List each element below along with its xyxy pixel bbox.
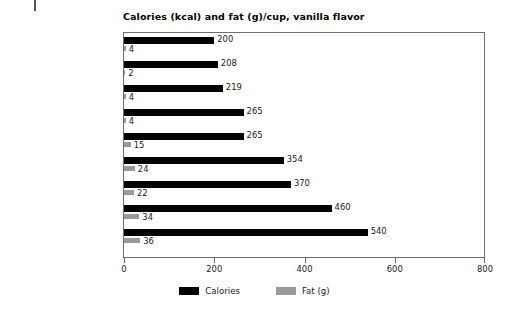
x-axis-tick-label: 0 (121, 264, 126, 274)
bar-value-calories: 208 (221, 58, 237, 68)
bar-value-calories: 540 (371, 226, 387, 236)
bar-value-fat: 34 (142, 212, 153, 222)
bar-calories (124, 61, 218, 68)
bar-value-calories: 265 (247, 130, 263, 140)
bar-value-fat: 4 (129, 116, 134, 126)
chart-title: Calories (kcal) and fat (g)/cup, vanilla… (123, 11, 365, 22)
bar-fat (124, 70, 125, 75)
x-axis: 0200400600800 (124, 257, 485, 281)
chart-row: Ice Cream/10% fat26515 (124, 129, 485, 153)
bar-fat (124, 46, 126, 51)
bar-value-fat: 22 (137, 188, 148, 198)
x-axis-tick-label: 200 (206, 264, 222, 274)
bar-fat (124, 190, 134, 195)
bar-value-calories: 354 (287, 154, 303, 164)
page-crop-mark (34, 0, 36, 11)
bar-fat (124, 166, 135, 171)
chart-row: Low-fat Ice Cream2004 (124, 33, 485, 57)
x-axis-tick-label: 800 (477, 264, 493, 274)
legend-item: Calories (179, 286, 240, 296)
legend-item: Fat (g) (276, 286, 330, 296)
bar-fat (124, 118, 126, 123)
legend-label: Calories (205, 286, 240, 296)
bar-value-fat: 2 (128, 68, 133, 78)
x-axis-tick (305, 257, 306, 263)
bar-calories (124, 37, 214, 44)
bar-calories (124, 229, 368, 236)
bar-value-calories: 370 (294, 178, 310, 188)
legend-swatch (276, 287, 296, 295)
bar-fat (124, 238, 140, 243)
chart-row: Sherbet (orange)2654 (124, 105, 485, 129)
chart-legend: CaloriesFat (g) (0, 286, 509, 296)
x-axis-tick-label: 600 (387, 264, 403, 274)
chart-row: Ice Cream/Häagen Dazs54036 (124, 225, 485, 249)
x-axis-tick-label: 400 (297, 264, 313, 274)
chart-page: Calories (kcal) and fat (g)/cup, vanilla… (0, 0, 509, 309)
bar-rows: Low-fat Ice Cream2004Frozen Yogurt/Nonfa… (124, 33, 485, 257)
x-axis-tick (395, 257, 396, 263)
x-axis-tick (124, 257, 125, 263)
bar-calories (124, 109, 244, 116)
bar-calories (124, 181, 291, 188)
bar-value-calories: 265 (247, 106, 263, 116)
legend-label: Fat (g) (302, 286, 330, 296)
bar-fat (124, 214, 139, 219)
bar-value-calories: 200 (217, 34, 233, 44)
bar-value-fat: 15 (134, 140, 145, 150)
x-axis-tick (214, 257, 215, 263)
bar-value-fat: 36 (143, 236, 154, 246)
chart-row: Frozen Yogurt/Low-fat2194 (124, 81, 485, 105)
bar-calories (124, 157, 284, 164)
x-axis-tick (484, 257, 485, 263)
bar-value-fat: 24 (138, 164, 149, 174)
chart-row: Ice Cream/16% fat35424 (124, 153, 485, 177)
bar-value-calories: 219 (226, 82, 242, 92)
bar-fat (124, 142, 131, 147)
chart-row: Ice Cream/Ben & Jerry's46034 (124, 201, 485, 225)
chart-row: Soft Serve37022 (124, 177, 485, 201)
bar-calories (124, 85, 223, 92)
bar-value-fat: 4 (129, 92, 134, 102)
legend-swatch (179, 287, 199, 295)
bar-calories (124, 133, 244, 140)
bar-calories (124, 205, 332, 212)
bar-value-fat: 4 (129, 44, 134, 54)
chart-row: Frozen Yogurt/Nonfat2082 (124, 57, 485, 81)
bar-fat (124, 94, 126, 99)
bar-value-calories: 460 (335, 202, 351, 212)
